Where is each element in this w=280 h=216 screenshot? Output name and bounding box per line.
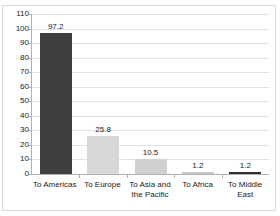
x-category-label: To Americas	[31, 180, 79, 208]
x-category-label: To Middle East	[221, 180, 269, 208]
y-axis-tick-labels: 1101009080706050403020100	[3, 14, 29, 174]
y-tick-label: 70	[3, 68, 29, 76]
y-tick-mark	[29, 174, 32, 175]
x-tick-mark	[174, 174, 175, 178]
plot-area: 97.225.810.51.21.2	[31, 14, 269, 175]
y-tick-label: 100	[3, 25, 29, 33]
y-tick-label: 90	[3, 39, 29, 47]
bar-slot: 25.8	[79, 14, 126, 174]
bar-slot: 1.2	[222, 14, 269, 174]
y-tick-label: 60	[3, 83, 29, 91]
bar: 25.8	[87, 136, 119, 174]
x-tick-mark	[222, 174, 223, 178]
bar-value-label: 1.2	[240, 161, 251, 170]
y-tick-label: 110	[3, 10, 29, 18]
bar-value-label: 10.5	[143, 148, 159, 157]
bar-value-label: 97.2	[48, 22, 64, 31]
bar: 10.5	[135, 159, 167, 174]
y-tick-label: 30	[3, 126, 29, 134]
bar-slot: 10.5	[127, 14, 174, 174]
bar-slot: 1.2	[174, 14, 221, 174]
bar-value-label: 25.8	[95, 125, 111, 134]
x-category-label: To Europe	[79, 180, 127, 208]
chart-plot-wrapper: 1101009080706050403020100 97.225.810.51.…	[3, 6, 275, 210]
x-axis-category-labels: To AmericasTo EuropeTo Asia and the Paci…	[31, 180, 269, 208]
bar-series: 97.225.810.51.21.2	[32, 14, 269, 174]
bar-value-label: 1.2	[192, 161, 203, 170]
x-tick-mark	[79, 174, 80, 178]
chart-frame: 1101009080706050403020100 97.225.810.51.…	[2, 5, 276, 211]
bar: 1.2	[182, 172, 214, 174]
y-tick-label: 40	[3, 112, 29, 120]
bar-slot: 97.2	[32, 14, 79, 174]
x-category-label: To Africa	[174, 180, 222, 208]
y-tick-label: 10	[3, 155, 29, 163]
y-tick-label: 0	[3, 170, 29, 178]
bar: 1.2	[229, 172, 261, 174]
y-tick-label: 50	[3, 97, 29, 105]
y-tick-label: 20	[3, 141, 29, 149]
y-tick-label: 80	[3, 54, 29, 62]
bar: 97.2	[40, 33, 72, 174]
x-tick-mark	[127, 174, 128, 178]
x-category-label: To Asia and the Pacific	[126, 180, 174, 208]
